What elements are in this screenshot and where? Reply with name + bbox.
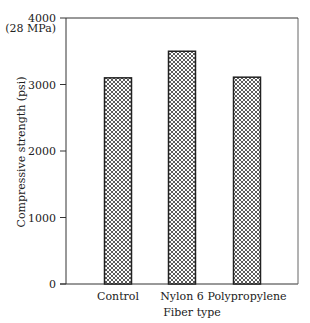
bar-chart: 01000200030004000 ControlNylon 6Polyprop… [0,0,310,323]
bar [105,78,132,284]
bars [105,51,261,284]
y-tick-label: 3000 [28,79,56,92]
y-tick-label: 0 [49,278,56,291]
y-tick-label: 2000 [28,145,56,158]
y-axis-title: Compressive strength (psi) [15,76,28,227]
x-axis-title: Fiber type [163,306,221,319]
x-axis: ControlNylon 6Polypropylene [97,290,287,303]
bar [234,77,261,284]
y-axis: 01000200030004000 [28,12,66,291]
bar [169,51,196,284]
y-annotation: (28 MPa) [5,22,56,35]
x-tick-label: Nylon 6 [160,290,204,303]
x-tick-label: Control [97,290,139,303]
y-tick-label: 1000 [28,212,56,225]
x-tick-label: Polypropylene [207,290,286,303]
